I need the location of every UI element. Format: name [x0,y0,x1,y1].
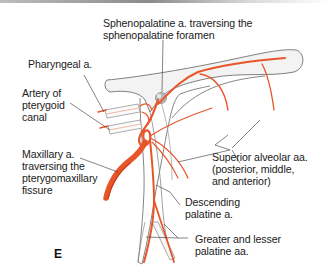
panel-letter: E [54,247,62,261]
descending-palatine-artery [144,140,154,262]
label-artery-of-pterygoid-canal: Artery of pterygoid canal [22,87,65,123]
label-descending-palatine-artery: Descending palatine a. [185,196,240,220]
label-sphenopalatine-artery: Sphenopalatine a. traversing the sphenop… [103,17,252,41]
label-greater-lesser-palatine-arteries: Greater and lesser palatine aa. [195,233,281,257]
pterygopalatine-artery-illustration [0,0,331,277]
label-maxillary-artery: Maxillary a. traversing the pterygomaxil… [22,148,98,196]
label-pharyngeal-artery: Pharyngeal a. [28,58,92,70]
pterygoid-canal-tubes [105,104,142,134]
label-superior-alveolar-arteries: Superior alveolar aa. (posterior, middle… [212,151,308,187]
